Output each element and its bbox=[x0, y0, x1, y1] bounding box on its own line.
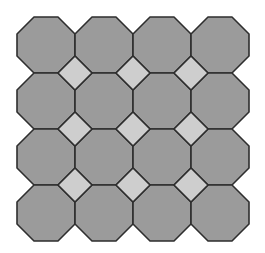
tiling-diagram bbox=[0, 0, 265, 253]
octagon-square-tiling bbox=[0, 0, 265, 253]
square-group bbox=[58, 56, 208, 202]
